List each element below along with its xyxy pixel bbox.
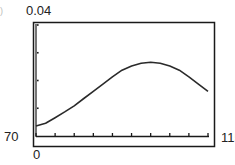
y-axis-ticks xyxy=(37,24,39,109)
pdf-curve xyxy=(36,62,208,126)
x-axis-ticks xyxy=(36,133,208,136)
calculator-graph xyxy=(0,0,235,165)
graph-frame xyxy=(34,23,215,147)
